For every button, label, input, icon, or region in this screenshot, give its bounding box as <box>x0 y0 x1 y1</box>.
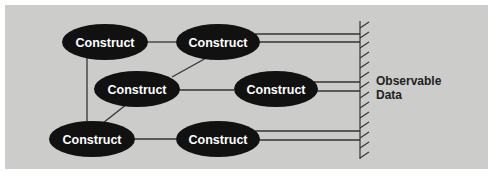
construct-label: Construct <box>188 36 248 50</box>
construct-node-6: Construct <box>176 121 260 157</box>
construct-node-1: Construct <box>62 24 148 60</box>
construct-label: Construct <box>246 83 306 97</box>
construct-label: Construct <box>188 133 248 147</box>
construct-label: Construct <box>107 83 167 97</box>
observable-label: Observable <box>376 74 442 88</box>
construct-node-4: Construct <box>234 71 318 107</box>
construct-label: Construct <box>62 133 122 147</box>
data-label: Data <box>376 88 402 102</box>
construct-label: Construct <box>75 36 135 50</box>
construct-node-5: Construct <box>49 121 135 157</box>
construct-diagram: Construct Construct Construct Construct … <box>0 0 501 185</box>
construct-node-3: Construct <box>94 71 180 107</box>
construct-node-2: Construct <box>176 24 260 60</box>
